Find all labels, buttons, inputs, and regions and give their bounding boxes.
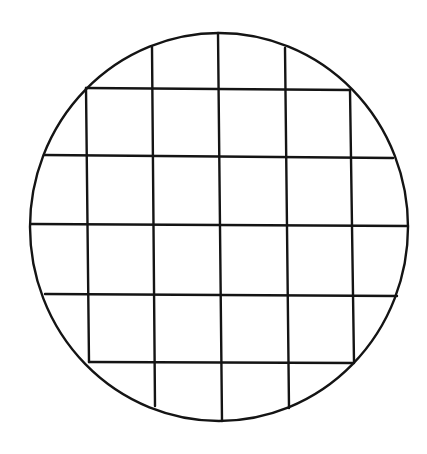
vertical-grid-line-2 (152, 47, 155, 406)
circle-grid-diagram (0, 0, 427, 454)
horizontal-grid-line-1 (86, 88, 350, 90)
horizontal-grid-line-4 (45, 294, 397, 296)
horizontal-grid-line-5 (89, 362, 354, 363)
vertical-grid-line-4 (285, 48, 289, 408)
horizontal-grid-line-2 (44, 155, 393, 158)
